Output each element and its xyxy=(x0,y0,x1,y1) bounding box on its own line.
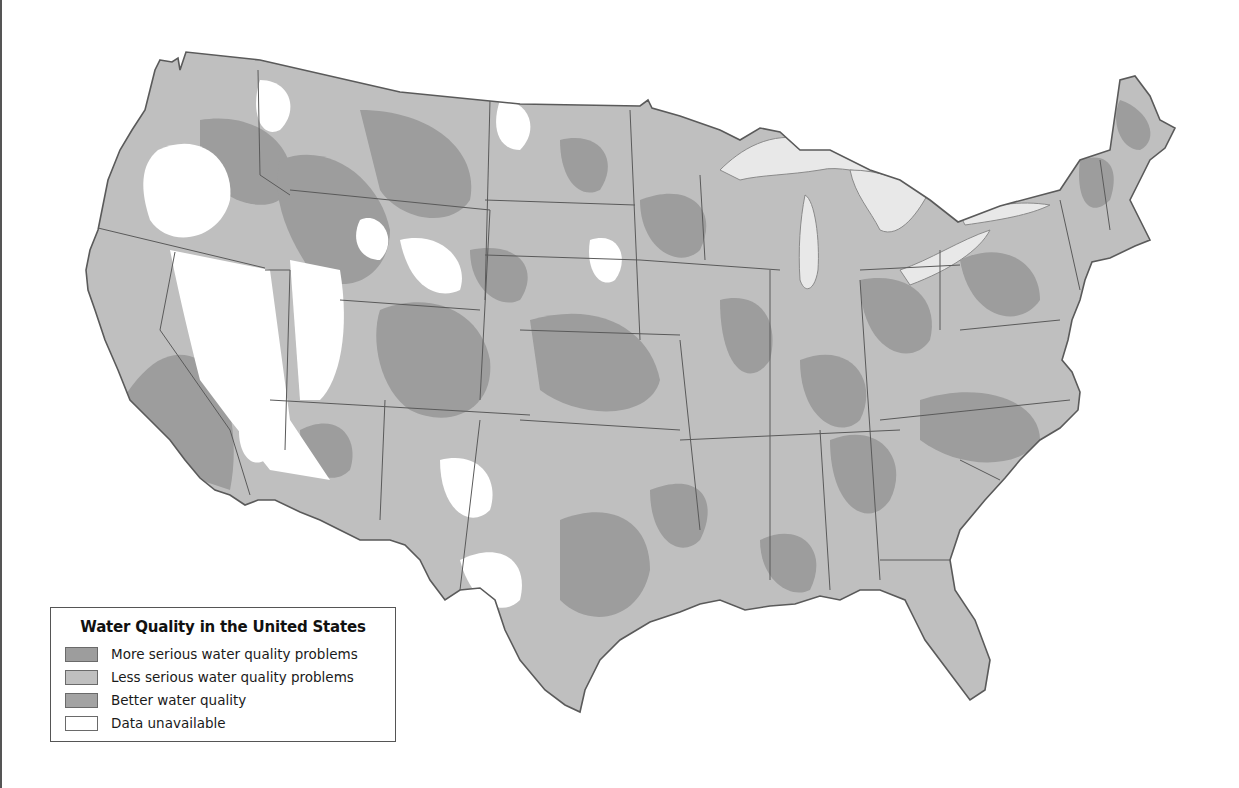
map-legend: Water Quality in the United States More … xyxy=(50,607,396,742)
legend-item-less-serious: Less serious water quality problems xyxy=(65,668,354,686)
swatch-unavailable xyxy=(65,716,98,731)
legend-title: Water Quality in the United States xyxy=(51,618,395,636)
swatch-more-serious xyxy=(65,647,98,662)
legend-label: Less serious water quality problems xyxy=(111,669,354,685)
swatch-better xyxy=(65,693,98,708)
legend-label: Better water quality xyxy=(111,692,246,708)
legend-item-more-serious: More serious water quality problems xyxy=(65,645,358,663)
legend-item-better: Better water quality xyxy=(65,691,246,709)
legend-label: More serious water quality problems xyxy=(111,646,358,662)
legend-item-unavailable: Data unavailable xyxy=(65,714,226,732)
legend-label: Data unavailable xyxy=(111,715,226,731)
swatch-less-serious xyxy=(65,670,98,685)
